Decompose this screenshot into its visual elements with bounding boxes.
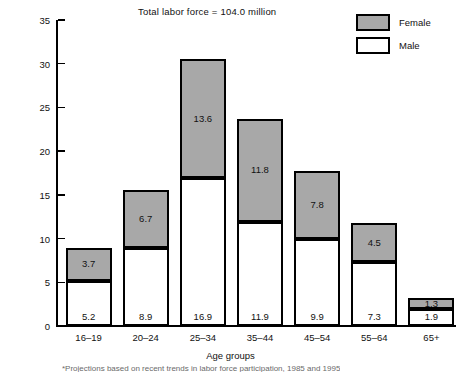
- y-tick-30: [58, 63, 65, 65]
- bar-value-female: 4.5: [368, 238, 381, 248]
- y-tick-label-15: 15: [26, 189, 50, 200]
- x-tick-label-65+: 65+: [391, 332, 461, 343]
- bar-segment-male[interactable]: 5.2: [66, 281, 112, 326]
- bar-segment-male[interactable]: 8.9: [123, 248, 169, 326]
- y-tick-20: [58, 150, 65, 152]
- bar-group-45_54[interactable]: 9.97.8: [294, 171, 340, 326]
- y-tick-label-35: 35: [26, 15, 50, 26]
- bar-segment-female[interactable]: 11.8: [237, 119, 283, 222]
- bar-segment-female[interactable]: 7.8: [294, 171, 340, 239]
- bar-value-female: 13.6: [194, 114, 213, 124]
- bar-segment-female[interactable]: 13.6: [180, 59, 226, 178]
- y-tick-label-0: 0: [26, 321, 50, 332]
- y-tick-label-20: 20: [26, 146, 50, 157]
- bar-value-female: 1.3: [425, 299, 438, 309]
- chart-figure: Total labor force = 104.0 million Female…: [0, 0, 461, 372]
- bar-group-55_64[interactable]: 7.34.5: [351, 223, 397, 326]
- y-axis-line: [56, 20, 58, 326]
- bar-value-male: 5.2: [82, 312, 95, 322]
- bar-segment-male[interactable]: 9.9: [294, 239, 340, 326]
- chart-title: Total labor force = 104.0 million: [138, 6, 276, 17]
- bar-segment-female[interactable]: 6.7: [123, 190, 169, 249]
- y-tick-label-5: 5: [26, 277, 50, 288]
- plot-area: 5.23.78.96.716.913.611.911.89.97.87.34.5…: [56, 20, 456, 326]
- bar-group-35_44[interactable]: 11.911.8: [237, 119, 283, 326]
- y-tick-10: [58, 238, 65, 240]
- x-axis-label: Age groups: [0, 350, 461, 361]
- bar-segment-male[interactable]: 7.3: [351, 262, 397, 326]
- y-tick-35: [58, 19, 65, 21]
- y-tick-label-30: 30: [26, 58, 50, 69]
- y-tick-15: [58, 194, 65, 196]
- chart-footnote: *Projections based on recent trends in l…: [62, 364, 340, 372]
- bar-value-female: 7.8: [311, 201, 324, 211]
- bar-segment-female[interactable]: 3.7: [66, 248, 112, 280]
- bar-value-male: 8.9: [139, 312, 152, 322]
- bar-value-male: 9.9: [311, 312, 324, 322]
- bar-value-female: 11.8: [251, 166, 269, 176]
- bar-segment-male[interactable]: 1.9: [408, 309, 454, 326]
- bar-value-male: 1.9: [425, 312, 438, 322]
- y-tick-0: [58, 325, 65, 327]
- bar-segment-female[interactable]: 1.3: [408, 298, 454, 309]
- bar-segment-male[interactable]: 11.9: [237, 222, 283, 326]
- bar-group-20_24[interactable]: 8.96.7: [123, 190, 169, 326]
- y-tick-label-10: 10: [26, 233, 50, 244]
- bar-segment-female[interactable]: 4.5: [351, 223, 397, 262]
- y-tick-25: [58, 107, 65, 109]
- bar-value-male: 7.3: [368, 312, 381, 322]
- y-tick-label-25: 25: [26, 102, 50, 113]
- bar-value-female: 6.7: [139, 214, 152, 224]
- bar-segment-male[interactable]: 16.9: [180, 178, 226, 326]
- bar-group-16_19[interactable]: 5.23.7: [66, 248, 112, 326]
- bar-value-male: 16.9: [194, 312, 213, 322]
- bar-group-65+[interactable]: 1.91.3: [408, 298, 454, 326]
- bar-value-male: 11.9: [251, 312, 269, 322]
- y-tick-5: [58, 282, 65, 284]
- bar-value-female: 3.7: [82, 260, 95, 270]
- bar-group-25_34[interactable]: 16.913.6: [180, 59, 226, 326]
